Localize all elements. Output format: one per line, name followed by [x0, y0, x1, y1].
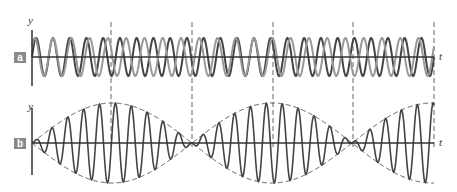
beats-diagram — [0, 0, 457, 192]
panel-b-t-label: t — [439, 136, 442, 148]
panel-a-badge: a — [14, 52, 26, 63]
panel-a-y-label: y — [28, 14, 33, 26]
panel-b-y-label: y — [28, 100, 33, 112]
panel-a-t-label: t — [439, 50, 442, 62]
panel-b-badge: b — [14, 138, 26, 149]
